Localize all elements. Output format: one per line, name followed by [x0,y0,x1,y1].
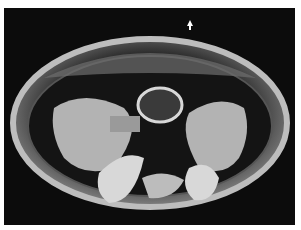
micrograph [4,8,295,225]
arrow-marker [187,20,193,30]
specimen [4,8,295,225]
central-disc [138,88,182,122]
comb-structure [110,116,140,132]
